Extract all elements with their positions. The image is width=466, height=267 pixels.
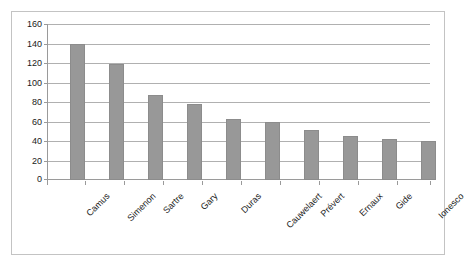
category-label-ionesco: Ionesco xyxy=(436,191,465,220)
category-label-duras: Duras xyxy=(239,191,263,215)
category-label-gary: Gary xyxy=(199,191,220,212)
category-label-camus: Camus xyxy=(84,191,111,218)
category-label-prevert: Prévert xyxy=(318,191,346,219)
category-label-ernaux: Ernaux xyxy=(357,191,384,218)
category-label-gide: Gide xyxy=(394,191,415,212)
category-label-sartre: Sartre xyxy=(161,191,185,215)
category-label-simenon: Simenon xyxy=(125,191,157,223)
